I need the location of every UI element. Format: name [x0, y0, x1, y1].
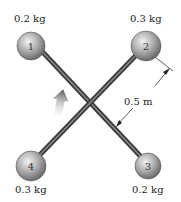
mass-1: 1	[17, 32, 45, 60]
mass-1-label: 0.2 kg	[14, 13, 46, 24]
mass-3: 3	[135, 153, 161, 179]
mass-3-number: 3	[145, 161, 151, 172]
dimension-label: 0.5 m	[124, 96, 153, 107]
mass-2-label: 0.3 kg	[130, 13, 162, 24]
rotation-arrow-icon	[49, 88, 71, 120]
cross-rods-diagram: 0.5 m 1 2 3 4 0.2 kg 0.3 kg 0.2 kg 0.3 k…	[0, 0, 181, 202]
mass-2: 2	[131, 31, 161, 61]
mass-4: 4	[16, 151, 46, 181]
mass-4-label: 0.3 kg	[15, 184, 47, 195]
mass-3-label: 0.2 kg	[132, 184, 164, 195]
mass-4-number: 4	[28, 161, 34, 172]
mass-2-number: 2	[143, 41, 149, 52]
mass-1-number: 1	[28, 41, 34, 52]
